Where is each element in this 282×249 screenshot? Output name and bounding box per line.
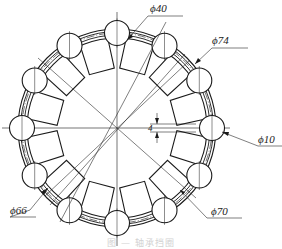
- leader-d74: [195, 48, 248, 64]
- slot-tab: [149, 56, 189, 96]
- dim-label-slot-width: 4: [148, 123, 153, 134]
- slot-tab: [81, 40, 115, 75]
- slot-tab: [170, 131, 205, 165]
- ring-part-drawing: [0, 0, 282, 249]
- slot-tab: [170, 92, 205, 126]
- dim-label-d66: ϕ66: [10, 205, 27, 216]
- dim-label-d40: ϕ40: [150, 3, 167, 14]
- dim-label-d70: ϕ70: [211, 206, 228, 217]
- arrow-slot-top: [155, 118, 159, 124]
- slot-tab: [45, 56, 85, 96]
- diag-line-3: [50, 54, 185, 205]
- dim-label-d74: ϕ74: [212, 35, 229, 46]
- slot-tab: [29, 92, 64, 126]
- slot-tab: [120, 40, 154, 75]
- slot-tab: [81, 181, 115, 216]
- slot-tab: [120, 181, 154, 216]
- figure-caption: 图 — 轴承挡圈: [0, 236, 282, 249]
- slot-tab: [45, 160, 85, 200]
- slot-tab: [29, 131, 64, 165]
- arrow-slot-bottom: [155, 132, 159, 138]
- dim-label-d10: ϕ10: [258, 134, 275, 145]
